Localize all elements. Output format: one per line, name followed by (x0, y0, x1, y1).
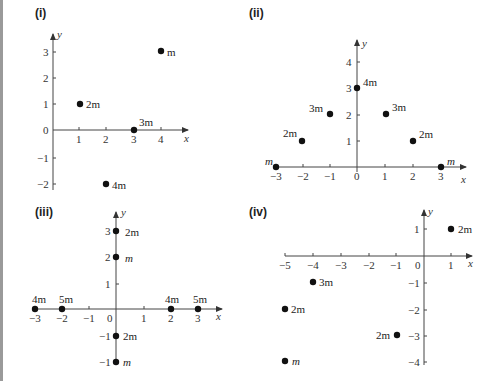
mass-point: 2m (448, 223, 473, 235)
svg-text:1: 1 (105, 278, 111, 290)
svg-text:2m: 2m (283, 127, 298, 139)
svg-text:−5: −5 (279, 259, 291, 271)
mass-point: m (438, 155, 455, 170)
mass-point: m (282, 355, 300, 367)
svg-text:2m: 2m (291, 303, 306, 315)
svg-text:2m: 2m (125, 226, 140, 238)
mass-point: 2m (282, 303, 306, 315)
svg-text:3m: 3m (139, 116, 154, 128)
panel-i: (i) y x 3 2 1 0 −1 −2 1 2 3 4 m 2m 3m 4m (35, 6, 189, 191)
panel-label: (iii) (35, 205, 53, 219)
svg-text:−3: −3 (270, 170, 282, 182)
svg-text:−1: −1 (99, 356, 111, 368)
svg-text:2m: 2m (419, 128, 434, 140)
svg-text:−4: −4 (408, 356, 420, 368)
y-axis-label: y (427, 205, 433, 217)
mass-point: m (265, 155, 279, 170)
mass-point: 3m (131, 116, 154, 133)
svg-text:1: 1 (382, 170, 388, 182)
svg-text:4: 4 (346, 56, 352, 68)
svg-text:2: 2 (168, 312, 174, 324)
svg-text:m: m (292, 355, 300, 367)
svg-text:−2: −2 (37, 178, 49, 190)
x-axis-label: x (460, 173, 466, 185)
svg-text:−1: −1 (390, 259, 402, 271)
svg-text:−1: −1 (83, 312, 95, 324)
mass-point: 2m (283, 127, 305, 144)
mass-point: 3m (310, 276, 334, 288)
svg-text:−1: −1 (408, 277, 420, 289)
svg-text:1: 1 (346, 135, 352, 147)
svg-text:0: 0 (43, 124, 49, 136)
mass-point: m (158, 46, 176, 58)
mass-point: 4m (103, 179, 127, 191)
svg-text:2m: 2m (376, 329, 391, 341)
panel-label: (ii) (249, 6, 264, 20)
mass-point: 3m (383, 101, 407, 117)
figure-canvas: (i) y x 3 2 1 0 −1 −2 1 2 3 4 m 2m 3m 4m… (0, 0, 482, 381)
svg-text:1: 1 (414, 223, 420, 235)
svg-text:−3: −3 (408, 330, 420, 342)
y-axis-label: y (361, 37, 367, 49)
svg-text:m: m (123, 356, 131, 368)
svg-text:−2: −2 (363, 259, 375, 271)
svg-text:3: 3 (195, 312, 201, 324)
svg-text:m: m (125, 252, 133, 264)
mass-point: 2m (113, 226, 140, 238)
svg-text:5m: 5m (193, 293, 208, 305)
svg-text:3: 3 (346, 82, 352, 94)
x-axis-label: x (467, 257, 473, 269)
svg-text:m: m (447, 155, 455, 167)
y-ticks: 4 3 2 1 (346, 56, 360, 147)
svg-text:−2: −2 (56, 312, 68, 324)
svg-text:1: 1 (448, 259, 454, 271)
svg-text:2: 2 (43, 72, 49, 84)
mass-point: 2m (410, 128, 434, 144)
svg-text:0: 0 (354, 170, 360, 182)
svg-text:4: 4 (158, 133, 164, 145)
svg-text:3m: 3m (392, 101, 407, 113)
y-axis-label: y (120, 206, 126, 218)
svg-text:−3: −3 (335, 259, 347, 271)
svg-text:−2: −2 (408, 304, 420, 316)
panel-label: (iv) (249, 205, 267, 219)
svg-text:−2: −2 (297, 170, 309, 182)
svg-text:−3: −3 (29, 312, 41, 324)
svg-text:−4: −4 (307, 259, 319, 271)
svg-text:0: 0 (107, 312, 113, 324)
svg-text:3m: 3m (319, 276, 334, 288)
svg-text:4m: 4m (32, 293, 47, 305)
svg-text:5m: 5m (59, 293, 74, 305)
svg-text:3: 3 (131, 133, 137, 145)
panel-label: (i) (35, 6, 46, 20)
svg-text:−1: −1 (324, 170, 336, 182)
svg-text:2m: 2m (123, 330, 138, 342)
mass-point: 2m (77, 98, 101, 110)
x-axis-label: x (183, 132, 189, 144)
panel-ii: (ii) y x 4 3 2 1 −3 −2 −1 0 1 2 3 m 2m 3… (249, 6, 466, 185)
svg-text:0: 0 (415, 259, 421, 271)
svg-text:3: 3 (438, 170, 444, 182)
svg-text:−1: −1 (37, 152, 49, 164)
svg-text:4m: 4m (165, 293, 180, 305)
svg-text:2: 2 (410, 170, 416, 182)
panel-iv: (iv) y x 1 −1 −2 −3 −4 −5 −4 −3 −2 −1 0 … (249, 205, 473, 368)
svg-text:2m: 2m (86, 98, 101, 110)
svg-text:1: 1 (141, 312, 147, 324)
svg-text:1: 1 (76, 133, 82, 145)
svg-text:2: 2 (103, 133, 109, 145)
svg-text:−1: −1 (99, 330, 111, 342)
svg-text:4m: 4m (363, 76, 378, 88)
svg-text:m: m (265, 155, 273, 167)
svg-text:m: m (167, 46, 176, 58)
x-axis-label: x (215, 310, 221, 322)
svg-text:3: 3 (105, 225, 111, 237)
svg-text:4m: 4m (112, 179, 127, 191)
svg-text:3m: 3m (309, 102, 324, 114)
svg-text:3: 3 (43, 46, 49, 58)
svg-text:2m: 2m (458, 223, 473, 235)
y-axis-label: y (56, 28, 62, 40)
mass-point: 2m (113, 330, 138, 342)
svg-text:2: 2 (346, 109, 352, 121)
mass-point: 3m (309, 102, 333, 117)
